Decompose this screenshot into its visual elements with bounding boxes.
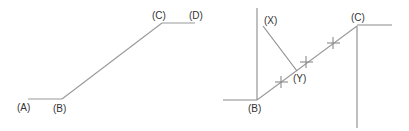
label-x: (X) [264, 15, 277, 26]
label-a: (A) [17, 102, 30, 113]
label-c: (C) [152, 10, 166, 21]
label-b: (B) [248, 103, 261, 114]
label-d: (D) [189, 10, 203, 21]
label-b: (B) [53, 103, 66, 114]
label-y: (Y) [293, 73, 306, 84]
label-c: (C) [351, 12, 365, 23]
diagram-canvas: (A) (B) (C) (D) (X) (Y) (B) (C) [0, 0, 409, 131]
segment-b-c-slope [62, 23, 162, 99]
right-figure: (X) (Y) (B) (C) [223, 8, 392, 128]
left-figure: (A) (B) (C) (D) [17, 10, 203, 114]
line-x-y [263, 26, 297, 71]
tick-mark-1 [275, 76, 288, 88]
